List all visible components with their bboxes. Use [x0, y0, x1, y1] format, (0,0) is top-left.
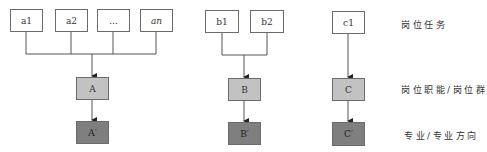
task-box-ellipsis: ...	[97, 9, 130, 32]
task-box-a2: a2	[55, 9, 88, 32]
row-label-functions: 岗位职能/岗位群	[401, 83, 487, 96]
major-box-c: C′	[332, 122, 365, 146]
task-box-c1: c1	[332, 11, 365, 34]
task-box-a1: a1	[10, 9, 43, 32]
task-box-b1: b1	[205, 10, 239, 33]
function-box-c: C	[332, 78, 365, 101]
task-box-b2: b2	[250, 10, 284, 33]
major-box-a: A′	[76, 121, 109, 144]
function-box-b: B	[228, 78, 261, 101]
function-box-a: A	[76, 77, 109, 100]
row-label-tasks: 岗位任务	[401, 18, 447, 31]
task-box-an: an	[140, 9, 173, 32]
major-box-b: B′	[228, 122, 261, 145]
row-label-majors: 专业/专业方向	[404, 129, 479, 142]
